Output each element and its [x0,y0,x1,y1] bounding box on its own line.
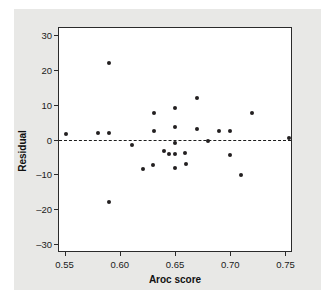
data-point [152,111,156,115]
data-point [173,141,177,145]
data-point [183,151,187,155]
x-tick-label: 0.70 [221,259,240,270]
data-point [228,153,232,157]
data-point [162,149,166,153]
y-tick-label: 10 [41,99,52,110]
x-tick-label: 0.60 [111,259,130,270]
data-point [167,152,171,156]
data-point [173,166,177,170]
data-point [141,167,145,171]
x-tick-label: 0.65 [166,259,185,270]
y-tick-label: 30 [41,29,52,40]
y-tick-label: 20 [41,64,52,75]
x-tick-mark [285,251,286,256]
x-tick-mark [230,251,231,256]
data-point [217,129,221,133]
x-tick-label: 0.55 [55,259,74,270]
data-point [195,96,199,100]
plot-area: 3020100–10–20–30 0.550.600.650.700.75 [58,27,292,252]
data-point [64,132,68,136]
data-point [239,173,243,177]
data-point [107,61,111,65]
data-point [107,131,111,135]
y-tick-label: –20 [36,204,52,215]
y-tick-mark [54,35,59,36]
data-point [250,111,254,115]
y-tick-mark [54,174,59,175]
data-point [130,143,134,147]
x-tick-mark [120,251,121,256]
y-tick-label: –30 [36,239,52,250]
data-point [107,200,111,204]
y-axis-label: Residual [17,130,28,172]
data-point [151,163,155,167]
x-axis-label: Aroc score [58,274,292,285]
x-tick-mark [65,251,66,256]
scatter-plot-figure: Residual 3020100–10–20–30 0.550.600.650.… [0,0,335,302]
y-tick-mark [54,209,59,210]
data-point [96,131,100,135]
y-tick-label: –10 [36,169,52,180]
y-tick-mark [54,105,59,106]
data-point [173,106,177,110]
data-point [184,162,188,166]
x-tick-label: 0.75 [276,259,295,270]
data-point [152,129,156,133]
data-point [206,139,210,143]
data-point [173,125,177,129]
data-point [195,127,199,131]
y-tick-label: 0 [47,134,52,145]
y-tick-mark [54,244,59,245]
y-tick-mark [54,70,59,71]
y-tick-mark [54,140,59,141]
x-tick-mark [175,251,176,256]
data-point [173,152,177,156]
data-point [228,129,232,133]
